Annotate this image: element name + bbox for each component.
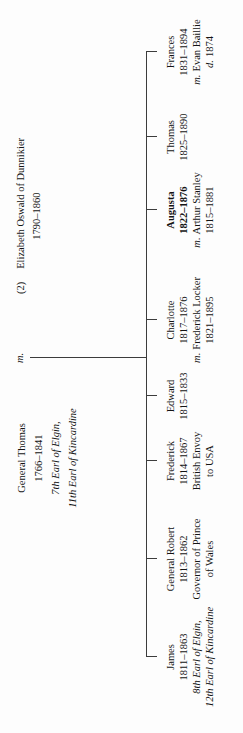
text-line: 7th Earl of Elgin, [47,408,64,507]
line-text: Frederick [165,441,176,481]
line-text: 1766–1841 [33,434,44,481]
line-prefix: d. [204,60,215,68]
line-text: Frederick Locker [191,277,202,350]
text-line: Augusta [164,172,177,247]
line-text: 1815–1881 [204,186,215,233]
text-line: 12th Earl of Kincardine [203,607,216,707]
text-line: 1766–1841 [30,408,47,507]
connector-tick [146,319,157,320]
text-line: 1822–1876 [177,172,190,247]
line-text: British Envoy [191,432,202,491]
person-augusta: Augusta1822–1876m.Arthur Stanley1815–188… [164,172,216,247]
line-text: Augusta [165,191,176,228]
text-line: 1815–1833 [177,372,190,419]
line-text: Evan Baillie [191,19,202,71]
person-elizabeth-oswald: (2)Elizabeth Oswald of Dunnikier1790–186… [13,138,45,294]
person-charlotte: Charlotte1817–1876m.Frederick Locker1821… [164,277,216,363]
line-text: James [165,644,176,670]
line-text: Edward [165,380,176,413]
line-prefix: m. [191,74,202,84]
line-text: 11th Earl of Kincardine [67,408,78,507]
text-line: m.Frederick Locker [190,277,203,363]
text-line: d.1874 [203,19,216,84]
person-frederick: Frederick1814–1867British Envoyto USA [164,432,216,491]
person-frances: Frances1831–1894m.Evan Baillied.1874 [164,19,216,84]
text-line: Charlotte [164,277,177,363]
text-line: to USA [203,432,216,491]
line-text: General Robert [165,527,176,591]
connector-tick [146,209,157,210]
text-line: Edward [164,372,177,419]
text-line: British Envoy [190,432,203,491]
line-prefix: m. [191,353,202,363]
line-prefix: m. [191,237,202,247]
text-line: m.Evan Baillie [190,19,203,84]
text-line: 1817–1876 [177,277,190,363]
connector-tick [146,656,157,657]
line-text: 1825–1890 [178,113,189,160]
line-text: 1813–1862 [178,535,189,582]
text-line: 1813–1862 [177,518,190,599]
text-line: m.Arthur Stanley [190,172,203,247]
line-text: Frances [165,36,176,69]
text-line: of Wales [203,518,216,599]
connector-tick [146,51,157,52]
family-tree-diagram: General Thomas1766–18417th Earl of Elgin… [0,0,243,733]
line-text: 1790–1860 [31,192,42,239]
person-edward: Edward1815–1833 [164,372,190,419]
text-line: James [164,607,177,707]
text-line: Frances [164,19,177,84]
line-prefix: (2) [15,282,26,294]
connector-tick [146,558,157,559]
line-text: to USA [204,445,215,477]
person-thomas: Thomas1825–1890 [164,113,190,160]
text-line: (2)Elizabeth Oswald of Dunnikier [13,138,29,294]
text-line: Governor of Prince [190,518,203,599]
text-line: 1825–1890 [177,113,190,160]
line-text: Thomas [165,120,176,154]
line-text: General Thomas [16,423,27,493]
line-text: 1811–1863 [178,634,189,681]
line-text: of Wales [204,541,215,578]
line-text: 1821–1895 [204,296,215,343]
line-text: 1822–1876 [178,186,189,233]
text-line: 1814–1867 [177,432,190,491]
text-line: 1815–1881 [203,172,216,247]
connector-tick [146,395,157,396]
person-general-robert: General Robert1813–1862Governor of Princ… [164,518,216,599]
text-line: 8th Earl of Elgin, [190,607,203,707]
text-line: 1790–1860 [29,138,45,294]
line-text: 12th Earl of Kincardine [204,607,215,707]
text-line: Thomas [164,113,177,160]
text-line: 1811–1863 [177,607,190,707]
line-text: 1815–1833 [178,372,189,419]
text-line: 1831–1894 [177,19,190,84]
text-line: Frederick [164,432,177,491]
line-text: 7th Earl of Elgin, [50,421,61,495]
line-text: 1817–1876 [178,296,189,343]
text-line: 11th Earl of Kincardine [64,408,81,507]
connector-tick [146,136,157,137]
line-text: 1831–1894 [178,28,189,75]
family-tree-page: General Thomas1766–18417th Earl of Elgin… [0,0,243,733]
line-text: Charlotte [165,300,176,339]
line-text: Arthur Stanley [191,172,202,234]
sibling-bar-line [146,52,147,657]
text-line: General Robert [164,518,177,599]
line-text: 1814–1867 [178,437,189,484]
person-general-thomas: General Thomas1766–18417th Earl of Elgin… [13,408,81,507]
marriage-descent-line [30,357,146,358]
connector-tick [146,460,157,461]
person-james: James1811–18638th Earl of Elgin,12th Ear… [164,607,216,707]
line-text: 1874 [204,36,215,57]
text-line: 1821–1895 [203,277,216,363]
line-text: Governor of Prince [191,518,202,599]
marriage-label: m. [13,353,26,363]
line-text: 8th Earl of Elgin, [191,620,202,694]
text-line: General Thomas [13,408,30,507]
line-text: Elizabeth Oswald of Dunnikier [15,138,26,269]
